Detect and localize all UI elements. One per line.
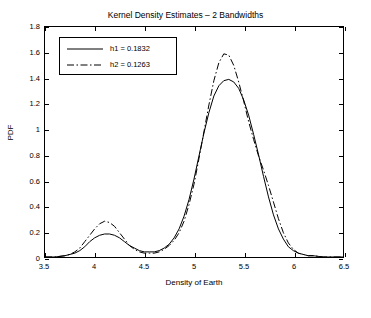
- plot-area: h1 = 0.1832 h2 = 0.1263: [44, 26, 344, 258]
- y-tick: [45, 259, 49, 260]
- y-tick-right: [339, 53, 343, 54]
- x-tick: [95, 253, 96, 257]
- y-tick: [45, 53, 49, 54]
- x-tick-top: [95, 27, 96, 31]
- x-tick-top: [145, 27, 146, 31]
- x-tick: [145, 253, 146, 257]
- legend-item-0: h1 = 0.1832: [60, 41, 176, 57]
- legend-swatch-dashdot: [66, 57, 104, 73]
- y-tick-right: [339, 79, 343, 80]
- y-tick: [45, 79, 49, 80]
- y-tick-right: [339, 233, 343, 234]
- y-tick-label: 0: [8, 254, 40, 263]
- series-line-h1: [45, 79, 343, 257]
- y-tick: [45, 207, 49, 208]
- y-tick-right: [339, 259, 343, 260]
- x-tick-top: [345, 27, 346, 31]
- y-tick: [45, 130, 49, 131]
- y-tick-right: [339, 104, 343, 105]
- figure: Kernel Density Estimates – 2 Bandwidths …: [0, 0, 371, 318]
- x-tick-label: 5: [192, 262, 196, 271]
- x-tick-label: 6.5: [339, 262, 349, 271]
- y-tick-right: [339, 207, 343, 208]
- y-tick: [45, 27, 49, 28]
- legend: h1 = 0.1832 h2 = 0.1263: [59, 37, 177, 75]
- legend-item-1: h2 = 0.1263: [60, 57, 176, 73]
- x-tick: [45, 253, 46, 257]
- x-tick-label: 5.5: [239, 262, 249, 271]
- y-tick: [45, 233, 49, 234]
- y-tick: [45, 182, 49, 183]
- y-tick-right: [339, 27, 343, 28]
- y-tick-label: 1.4: [8, 73, 40, 82]
- y-tick: [45, 104, 49, 105]
- x-tick: [245, 253, 246, 257]
- chart-title: Kernel Density Estimates – 2 Bandwidths: [0, 10, 371, 20]
- x-tick-label: 6: [292, 262, 296, 271]
- y-axis-title: PDF: [6, 103, 15, 163]
- x-tick-top: [295, 27, 296, 31]
- x-tick: [345, 253, 346, 257]
- legend-label-0: h1 = 0.1832: [110, 44, 150, 53]
- y-tick-label: 0.2: [8, 228, 40, 237]
- x-tick-top: [195, 27, 196, 31]
- legend-swatch-solid: [66, 41, 104, 57]
- y-tick-right: [339, 130, 343, 131]
- y-tick-label: 1.8: [8, 22, 40, 31]
- x-tick-top: [245, 27, 246, 31]
- series-line-h2: [45, 54, 343, 257]
- y-tick-right: [339, 182, 343, 183]
- legend-label-1: h2 = 0.1263: [110, 60, 150, 69]
- x-tick: [195, 253, 196, 257]
- x-tick-label: 3.5: [39, 262, 49, 271]
- y-tick-right: [339, 156, 343, 157]
- x-axis-title: Density of Earth: [44, 278, 344, 287]
- y-tick: [45, 156, 49, 157]
- x-tick-label: 4: [92, 262, 96, 271]
- y-tick-label: 1.6: [8, 47, 40, 56]
- y-tick-label: 0.4: [8, 202, 40, 211]
- x-tick: [295, 253, 296, 257]
- x-tick-label: 4.5: [139, 262, 149, 271]
- y-tick-label: 0.6: [8, 176, 40, 185]
